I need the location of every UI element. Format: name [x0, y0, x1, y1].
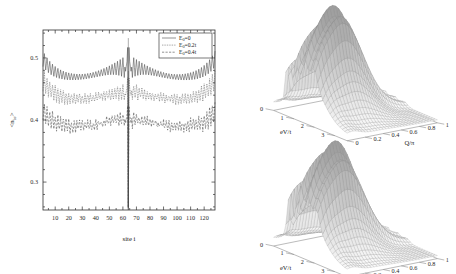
q-pi-tick	[383, 270, 390, 271]
q-pi-tick	[419, 262, 426, 263]
ev-t-tick-label: 1	[280, 249, 283, 256]
ev-t-axis-title: eV/t	[280, 264, 292, 271]
x-tick-label: 70	[133, 214, 139, 221]
ev-t-tick-label: 0	[260, 241, 263, 248]
y-axis-title: <niσ>	[8, 112, 17, 127]
q-pi-tick-label: 1	[446, 256, 449, 263]
data-series-0	[43, 47, 215, 207]
x-tick-label: 10	[52, 214, 58, 221]
series-group	[43, 38, 215, 210]
ev-t-tick	[266, 109, 274, 111]
surface-plot-area: 0123eV/t00.20.40.60.81Q/π	[260, 5, 449, 146]
surface-bottom-svg: 0123eV/t00.20.40.60.81Q/π	[228, 134, 456, 274]
x-tick-label: 100	[172, 214, 181, 221]
ev-t-tick-label: 1	[280, 114, 283, 121]
ev-t-tick-label: 3	[321, 267, 324, 274]
x-tick-label: 50	[106, 214, 112, 221]
x-axis-title: site i	[122, 235, 135, 242]
x-tick-label: 20	[66, 214, 72, 221]
surface-plot-area: 0123eV/t00.20.40.60.81Q/π	[260, 141, 449, 274]
ev-t-tick-label: 0	[260, 105, 263, 112]
q-pi-tick	[419, 126, 426, 127]
ev-t-tick-label: 2	[301, 122, 304, 129]
q-pi-tick-label: 0.8	[428, 124, 436, 131]
surface-mesh	[274, 5, 438, 133]
plot-area: 102030405060708090100110120site i0.30.40…	[8, 30, 215, 242]
x-tick-label: 110	[186, 214, 195, 221]
q-pi-tick-label: 0.8	[428, 260, 436, 267]
x-tick-label: 120	[200, 214, 209, 221]
ev-t-tick	[266, 244, 274, 246]
y-tick-label: 0.4	[30, 116, 38, 123]
x-tick-label: 60	[120, 214, 126, 221]
legend: E0=0E0=0.2tE0=0.4t	[159, 33, 212, 58]
q-pi-tick-label: 0.4	[392, 267, 400, 274]
q-pi-tick	[437, 123, 444, 124]
line-chart-panel: 102030405060708090100110120site i0.30.40…	[0, 0, 230, 274]
q-pi-tick-label: 0.6	[410, 264, 418, 271]
x-tick-label: 90	[160, 214, 166, 221]
y-tick-label: 0.5	[30, 54, 38, 61]
ev-t-tick-label: 2	[301, 258, 304, 265]
q-pi-tick	[437, 259, 444, 260]
x-tick-label: 80	[147, 214, 153, 221]
figure-root: 102030405060708090100110120site i0.30.40…	[0, 0, 456, 274]
y-tick-label: 0.3	[30, 178, 38, 185]
q-pi-tick	[401, 266, 408, 267]
q-pi-tick-label: 1	[446, 121, 449, 128]
surface-mesh	[274, 141, 438, 269]
surface-top-panel: 0123eV/t00.20.40.60.81Q/π	[228, 0, 456, 138]
line-chart-svg: 102030405060708090100110120site i0.30.40…	[0, 0, 230, 274]
x-tick-label: 30	[79, 214, 85, 221]
surface-bottom-panel: 0123eV/t00.20.40.60.81Q/π	[228, 134, 456, 274]
data-series-2	[43, 102, 215, 208]
q-pi-tick	[401, 130, 408, 131]
svg-text:<niσ>: <niσ>	[8, 112, 17, 127]
surface-top-svg: 0123eV/t00.20.40.60.81Q/π	[228, 0, 456, 138]
x-tick-label: 40	[93, 214, 99, 221]
